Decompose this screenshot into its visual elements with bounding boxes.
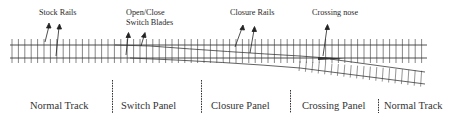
panel-label-closure-panel: Closure Panel [211, 101, 270, 112]
label-crossing-nose: Crossing nose [312, 9, 358, 17]
panel-label-crossing-panel: Crossing Panel [302, 101, 365, 112]
diverging-track-sleepers [299, 61, 422, 87]
label-switch-blades-line2: Switch Blades [126, 19, 173, 27]
label-stock-rails: Stock Rails [39, 9, 77, 17]
panel-label-normal-track-1: Normal Track [30, 101, 89, 112]
panel-label-normal-track-2: Normal Track [384, 101, 443, 112]
diverging-outer-rail [130, 58, 425, 84]
panel-label-switch-panel: Switch Panel [121, 101, 176, 112]
label-closure-rails: Closure Rails [230, 9, 274, 17]
annotation-arrows [45, 23, 330, 56]
label-switch-blades-line1: Open/Close [126, 9, 165, 17]
